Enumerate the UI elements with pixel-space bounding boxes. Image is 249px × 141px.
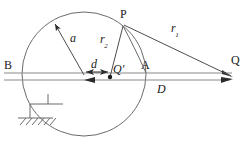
point-q-prime-dot [108,75,112,79]
eccentric-rotor-geometry-diagram: B A P Q Q′ a d D r2 r1 [0,0,249,141]
label-radius-r1: r1 [171,22,179,37]
label-radius-r2-subscript: 2 [104,42,108,50]
label-radius-a: a [70,32,76,44]
label-distance-d: D [157,83,166,95]
label-offset-d: d [91,58,97,70]
label-point-q: Q [231,54,240,66]
label-point-q-prime: Q′ [113,63,124,75]
diagram-canvas [0,0,249,141]
label-point-p: P [120,8,127,20]
label-point-a: A [141,59,150,71]
label-radius-r2: r2 [100,33,108,48]
arrowhead-q-lower [221,77,233,83]
label-point-b: B [4,59,12,71]
label-radius-r1-subscript: 1 [175,31,179,39]
arrowhead-center-lower [84,77,95,83]
ground-support-symbol [18,94,63,125]
